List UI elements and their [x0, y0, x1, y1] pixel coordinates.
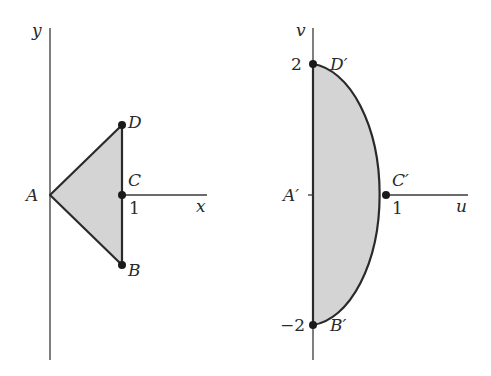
label-b: B — [128, 262, 141, 279]
u-axis-label: u — [456, 198, 467, 215]
left-panel — [50, 28, 207, 360]
triangle-region — [50, 125, 122, 265]
v-tick-2: 2 — [291, 56, 302, 73]
point-c-prime — [382, 191, 390, 199]
right-panel — [308, 28, 468, 360]
x-tick-1: 1 — [129, 200, 140, 217]
y-axis-label: y — [32, 22, 42, 39]
point-b — [118, 261, 126, 269]
u-tick-1: 1 — [392, 200, 403, 217]
diagram-canvas — [0, 0, 491, 376]
label-c: C — [128, 172, 141, 189]
x-axis-label: x — [196, 198, 206, 215]
point-c — [118, 191, 126, 199]
label-b-prime: B′ — [330, 317, 346, 334]
label-d-prime: D′ — [330, 56, 348, 73]
v-axis-label: v — [296, 22, 306, 39]
label-a: A — [26, 187, 38, 204]
point-d — [118, 121, 126, 129]
point-b-prime — [309, 321, 317, 329]
half-ellipse-region — [313, 64, 380, 325]
label-d: D — [128, 114, 142, 131]
label-c-prime: C′ — [392, 172, 409, 189]
v-tick-neg2: −2 — [280, 317, 305, 334]
label-a-prime: A′ — [283, 187, 299, 204]
point-d-prime — [309, 60, 317, 68]
